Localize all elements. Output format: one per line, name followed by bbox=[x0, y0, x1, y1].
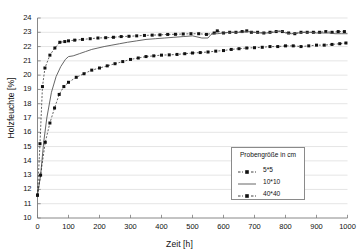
y-tick-label: 13 bbox=[14, 170, 32, 179]
x-tick-label: 200 bbox=[85, 222, 115, 231]
y-axis-title: Holzfeuchte [%] bbox=[6, 48, 16, 168]
x-tick-label: 800 bbox=[271, 222, 301, 231]
y-tick-label: 10 bbox=[14, 213, 32, 222]
y-tick-label: 11 bbox=[14, 199, 32, 208]
legend-item-10x10: 10*10 bbox=[232, 176, 304, 188]
y-tick-label: 24 bbox=[14, 13, 32, 22]
x-tick-label: 300 bbox=[116, 222, 146, 231]
x-tick-label: 900 bbox=[302, 222, 332, 231]
x-tick-marks bbox=[38, 215, 348, 218]
x-tick-label: 400 bbox=[147, 222, 177, 231]
x-axis-title: Zeit [h] bbox=[0, 239, 359, 249]
legend-item-5x5: 5*5 bbox=[232, 164, 304, 176]
legend-label-5x5: 5*5 bbox=[263, 164, 273, 176]
y-tick-label: 22 bbox=[14, 42, 32, 51]
y-tick-label: 16 bbox=[14, 127, 32, 136]
x-tick-label: 0 bbox=[23, 222, 53, 231]
y-tick-label: 14 bbox=[14, 156, 32, 165]
y-tick-label: 20 bbox=[14, 70, 32, 79]
x-tick-label: 500 bbox=[178, 222, 208, 231]
x-tick-label: 100 bbox=[54, 222, 84, 231]
y-tick-label: 15 bbox=[14, 142, 32, 151]
legend-label-40x40: 40*40 bbox=[263, 188, 280, 200]
y-tick-label: 23 bbox=[14, 27, 32, 36]
chart-container: 101112131415161718192021222324 010020030… bbox=[0, 0, 359, 252]
y-tick-label: 19 bbox=[14, 84, 32, 93]
x-tick-label: 700 bbox=[240, 222, 270, 231]
legend-item-40x40: 40*40 bbox=[232, 188, 304, 200]
chart-plot-area bbox=[0, 0, 359, 252]
y-tick-label: 17 bbox=[14, 113, 32, 122]
x-tick-label: 600 bbox=[209, 222, 239, 231]
y-tick-label: 12 bbox=[14, 184, 32, 193]
y-tick-marks bbox=[38, 18, 41, 218]
x-tick-label: 1000 bbox=[333, 222, 359, 231]
legend-symbol-10x10 bbox=[232, 176, 263, 188]
legend-label-10x10: 10*10 bbox=[263, 176, 280, 188]
legend-title: Probengröße in cm bbox=[232, 151, 304, 158]
legend-symbol-5x5 bbox=[232, 164, 263, 176]
y-tick-label: 21 bbox=[14, 56, 32, 65]
legend-symbol-40x40 bbox=[232, 188, 263, 200]
y-tick-label: 18 bbox=[14, 99, 32, 108]
chart-legend: Probengröße in cm 5*5 10*10 bbox=[231, 147, 305, 200]
